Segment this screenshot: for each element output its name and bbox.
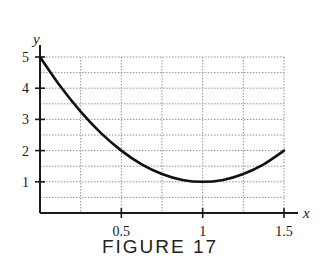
y-tick-label: 1 <box>22 175 29 190</box>
x-axis-label: x <box>302 205 310 221</box>
tick-marks <box>35 57 284 218</box>
figure-caption: FIGURE 17 <box>0 236 320 258</box>
y-tick-label: 5 <box>22 50 29 65</box>
chart: 0.511.512345 y x <box>0 0 320 240</box>
y-tick-label: 4 <box>22 81 29 96</box>
axes <box>40 45 298 213</box>
y-tick-label: 3 <box>22 112 29 127</box>
grid-lines <box>40 57 284 213</box>
y-axis-label: y <box>31 31 40 47</box>
y-tick-label: 2 <box>22 144 29 159</box>
tick-labels: 0.511.512345 <box>22 50 293 239</box>
